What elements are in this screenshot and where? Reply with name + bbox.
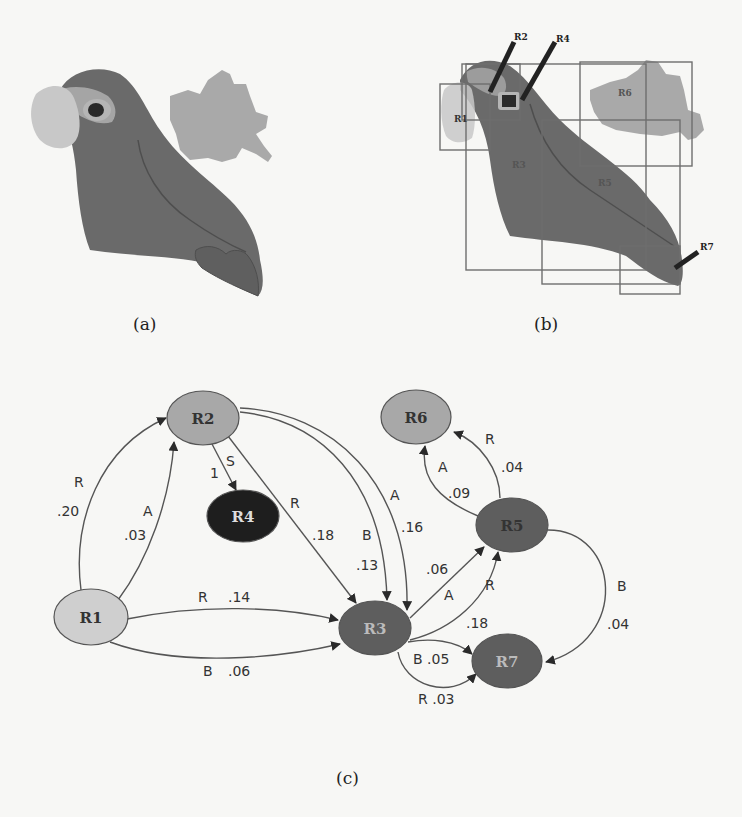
label-r1r3-B-rel: B: [203, 663, 213, 679]
label-r1r2-R-rel: R: [74, 474, 84, 490]
edge-R3-R5-A: [410, 547, 484, 618]
label-r1r2-R-w: .20: [57, 503, 79, 519]
node-label-R7: R7: [496, 653, 519, 671]
node-label-R6: R6: [405, 409, 428, 427]
label-r3r5-R-w: .18: [466, 615, 488, 631]
label-r1r3-R-rel: R: [198, 589, 208, 605]
label-r5r7-B-rel: B: [617, 578, 627, 594]
label-r2r4-S-rel: S: [226, 453, 235, 469]
label-r2r3-A-rel: A: [390, 487, 400, 503]
edge-R1-R3-R: [127, 609, 338, 620]
label-r2r3-B-w: .13: [356, 557, 378, 573]
label-r2r3-A-w: .16: [401, 519, 423, 535]
label-r2r3-R-w: .18: [312, 527, 334, 543]
node-label-R4: R4: [232, 508, 255, 526]
node-label-R5: R5: [501, 517, 524, 535]
label-r3r7-R: R .03: [418, 691, 454, 707]
label-r5r6-A-rel: A: [438, 459, 448, 475]
label-r5r7-B-w: .04: [607, 616, 629, 632]
label-r5r6-R-w: .04: [501, 459, 523, 475]
node-label-R2: R2: [192, 410, 215, 428]
label-r2r3-B-rel: B: [362, 527, 372, 543]
label-r2r4-S-w: 1: [210, 465, 219, 481]
edge-R5-R6-A: [424, 446, 478, 516]
label-r3r5-A-w: .06: [426, 561, 448, 577]
label-r5r6-R-rel: R: [485, 431, 495, 447]
edge-R1-R2-A: [118, 442, 174, 600]
panel-c: R1 R2 R4 R3 R5 R6 R7 R .20 A .03 S 1 R .…: [0, 0, 742, 817]
edge-R5-R7-B: [546, 530, 606, 662]
label-r2r3-R-rel: R: [290, 495, 300, 511]
label-r1r3-R-w: .14: [228, 589, 250, 605]
label-r3r5-R-rel: R: [485, 577, 495, 593]
caption-c: (c): [336, 768, 359, 788]
edge-R1-R3-B: [110, 642, 340, 658]
label-r1r2-A-w: .03: [124, 527, 146, 543]
graph-edge-labels: R .20 A .03 S 1 R .18 B .13 A .16 R .14 …: [57, 431, 629, 707]
node-label-R1: R1: [80, 609, 103, 627]
label-r3r7-B: B .05: [413, 651, 449, 667]
label-r1r3-B-w: .06: [228, 663, 250, 679]
relation-graph: R1 R2 R4 R3 R5 R6 R7 R .20 A .03 S 1 R .…: [0, 0, 742, 817]
label-r1r2-A-rel: A: [143, 503, 153, 519]
edge-R1-R2-R: [79, 418, 166, 590]
label-r5r6-A-w: .09: [448, 485, 470, 501]
node-label-R3: R3: [364, 620, 387, 638]
label-r3r5-A-rel: A: [444, 587, 454, 603]
